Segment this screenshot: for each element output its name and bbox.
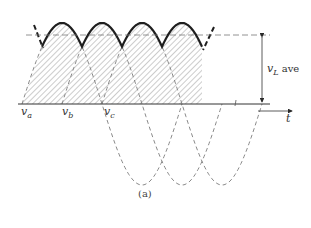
- waveform-diagram: [0, 0, 311, 228]
- t-tick: [235, 100, 236, 106]
- figure-caption: (a): [138, 188, 152, 199]
- label-t: t: [286, 112, 290, 125]
- label-vb: vb: [62, 105, 73, 120]
- label-vL-ave: vL ave: [267, 62, 299, 77]
- label-vc: vc: [104, 105, 115, 120]
- rectifier-waveform-figure: va vb vc vL ave t (a): [0, 0, 311, 228]
- label-va: va: [21, 105, 32, 120]
